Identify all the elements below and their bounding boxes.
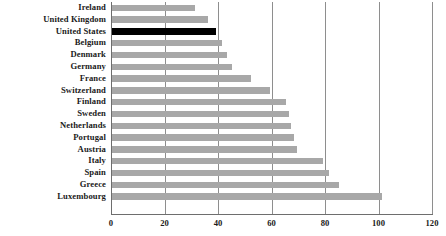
category-label: Denmark — [0, 49, 106, 61]
bar-track — [112, 61, 433, 73]
bar-track — [112, 155, 433, 167]
bar-track — [112, 179, 433, 191]
bar-track — [112, 73, 433, 85]
bar-italy — [112, 158, 323, 164]
chart-row: Portugal — [0, 132, 446, 144]
x-tick-label-80: 80 — [321, 218, 330, 228]
bar-denmark — [112, 52, 227, 58]
category-label: Portugal — [0, 132, 106, 144]
chart-row: Switzerland — [0, 85, 446, 97]
bar-rows: IrelandUnited KingdomUnited StatesBelgiu… — [0, 2, 446, 214]
category-label: Greece — [0, 179, 106, 191]
bar-finland — [112, 99, 286, 105]
category-label: France — [0, 73, 106, 85]
chart-row: Ireland — [0, 2, 446, 14]
category-label: United States — [0, 26, 106, 38]
chart-row: Denmark — [0, 49, 446, 61]
chart-row: Sweden — [0, 108, 446, 120]
bar-track — [112, 191, 433, 203]
bar-luxembourg — [112, 193, 382, 199]
bar-track — [112, 132, 433, 144]
x-axis-line — [111, 214, 433, 215]
bar-spain — [112, 170, 329, 176]
bar-united-states — [112, 28, 216, 36]
category-label: Belgium — [0, 37, 106, 49]
bar-germany — [112, 64, 232, 70]
category-label: Germany — [0, 61, 106, 73]
bar-united-kingdom — [112, 16, 208, 22]
bar-belgium — [112, 40, 222, 46]
bar-sweden — [112, 111, 289, 117]
chart-row: Netherlands — [0, 120, 446, 132]
bar-track — [112, 120, 433, 132]
category-label: Netherlands — [0, 120, 106, 132]
category-label: Switzerland — [0, 85, 106, 97]
bar-switzerland — [112, 87, 270, 93]
category-label: Austria — [0, 144, 106, 156]
category-label: Italy — [0, 155, 106, 167]
chart-row: Luxembourg — [0, 191, 446, 203]
bar-portugal — [112, 134, 294, 140]
bar-netherlands — [112, 123, 291, 129]
chart-row: Spain — [0, 167, 446, 179]
x-tick-label-60: 60 — [267, 218, 276, 228]
chart-row: France — [0, 73, 446, 85]
bar-track — [112, 14, 433, 26]
bar-track — [112, 2, 433, 14]
bar-track — [112, 144, 433, 156]
bar-track — [112, 167, 433, 179]
bar-france — [112, 75, 251, 81]
chart-row: Italy — [0, 155, 446, 167]
x-tick-label-20: 20 — [160, 218, 169, 228]
bar-track — [112, 37, 433, 49]
bar-track — [112, 49, 433, 61]
category-label: Finland — [0, 96, 106, 108]
chart-row: Germany — [0, 61, 446, 73]
bar-track — [112, 108, 433, 120]
bar-austria — [112, 146, 297, 152]
chart-row: Greece — [0, 179, 446, 191]
category-label: Ireland — [0, 2, 106, 14]
category-label: Sweden — [0, 108, 106, 120]
bar-track — [112, 96, 433, 108]
chart-row: Finland — [0, 96, 446, 108]
x-tick-label-40: 40 — [214, 218, 223, 228]
bar-track — [112, 26, 433, 38]
x-tick-label-120: 120 — [426, 218, 439, 228]
bar-ireland — [112, 5, 195, 11]
x-tick-label-100: 100 — [372, 218, 385, 228]
bar-track — [112, 85, 433, 97]
chart-row: United Kingdom — [0, 14, 446, 26]
chart-row: Belgium — [0, 37, 446, 49]
bar-greece — [112, 182, 339, 188]
chart-row: Austria — [0, 144, 446, 156]
x-axis-tick-labels: 020406080100120 — [0, 216, 446, 234]
chart-row: United States — [0, 26, 446, 38]
bar-chart: IrelandUnited KingdomUnited StatesBelgiu… — [0, 0, 446, 236]
category-label: United Kingdom — [0, 14, 106, 26]
category-label: Spain — [0, 167, 106, 179]
category-label: Luxembourg — [0, 191, 106, 203]
x-tick-label-0: 0 — [109, 218, 113, 228]
